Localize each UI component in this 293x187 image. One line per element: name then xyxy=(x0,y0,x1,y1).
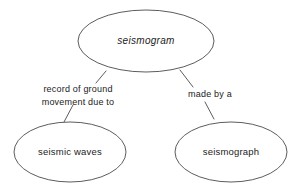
node-seismogram-label: seismogram xyxy=(117,35,174,46)
node-seismic-waves[interactable]: seismic waves xyxy=(14,122,126,182)
edge-label-left-line-1: record of ground xyxy=(43,84,112,94)
concept-map-svg: seismogram seismic waves seismograph rec… xyxy=(0,0,293,187)
node-seismic-waves-label: seismic waves xyxy=(38,146,102,157)
node-seismograph-label: seismograph xyxy=(203,146,260,157)
edge-label-left-line-2: movement due to xyxy=(42,97,115,107)
node-seismogram[interactable]: seismogram xyxy=(78,10,214,72)
edge-label-right-line-1: made by a xyxy=(188,89,232,99)
connector-root-to-seismograph-upper xyxy=(180,70,193,87)
connector-root-to-seismograph-lower xyxy=(205,102,214,119)
node-seismograph[interactable]: seismograph xyxy=(175,122,287,182)
edge-label-made-by-a: made by a xyxy=(188,89,232,99)
connector-root-to-seismic-waves-upper xyxy=(96,71,106,83)
connector-root-to-seismic-waves-lower xyxy=(64,105,73,122)
edge-label-record-of-ground-movement: record of ground movement due to xyxy=(42,84,115,107)
